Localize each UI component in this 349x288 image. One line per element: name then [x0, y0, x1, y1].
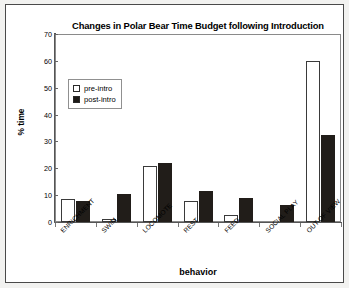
- bar-post-intro: [239, 198, 253, 222]
- legend-item-pre-intro: pre-intro: [73, 83, 116, 94]
- x-tick-mark: [300, 223, 301, 227]
- y-tick-label: 50: [30, 83, 52, 92]
- figure-frame: Changes in Polar Bear Time Budget follow…: [5, 4, 344, 283]
- y-tick-label: 20: [30, 164, 52, 173]
- legend-swatch-pre-intro: [73, 85, 80, 92]
- x-axis-title: behavior: [55, 267, 341, 277]
- y-tick-mark: [54, 195, 58, 196]
- bar-pre-intro: [306, 61, 320, 222]
- x-tick-mark: [96, 223, 97, 227]
- bar-post-intro: [117, 194, 131, 222]
- y-tick-labels: 010203040506070: [26, 5, 52, 288]
- y-tick-mark: [54, 34, 58, 35]
- y-tick-mark: [54, 61, 58, 62]
- y-tick-label: 40: [30, 110, 52, 119]
- x-tick-mark: [55, 223, 56, 227]
- legend-swatch-post-intro: [73, 96, 80, 103]
- chart-legend: pre-intro post-intro: [68, 79, 122, 109]
- legend-label-pre-intro: pre-intro: [84, 84, 112, 93]
- x-tick-mark: [178, 223, 179, 227]
- legend-label-post-intro: post-intro: [84, 95, 116, 104]
- x-tick-mark: [137, 223, 138, 227]
- chart-title: Changes in Polar Bear Time Budget follow…: [54, 20, 342, 31]
- y-tick-mark: [54, 168, 58, 169]
- y-tick-mark: [54, 141, 58, 142]
- y-tick-label: 70: [30, 30, 52, 39]
- y-axis-title: % time: [16, 98, 26, 146]
- y-tick-label: 0: [30, 218, 52, 227]
- figure-root: Changes in Polar Bear Time Budget follow…: [0, 0, 349, 288]
- bar-post-intro: [199, 191, 213, 222]
- y-tick-mark: [54, 115, 58, 116]
- y-tick-mark: [54, 88, 58, 89]
- legend-item-post-intro: post-intro: [73, 94, 116, 105]
- x-tick-mark: [341, 223, 342, 227]
- y-tick-label: 10: [30, 191, 52, 200]
- bars-layer: [55, 34, 341, 222]
- x-tick-mark: [259, 223, 260, 227]
- x-tick-mark: [218, 223, 219, 227]
- y-tick-label: 60: [30, 56, 52, 65]
- y-tick-label: 30: [30, 137, 52, 146]
